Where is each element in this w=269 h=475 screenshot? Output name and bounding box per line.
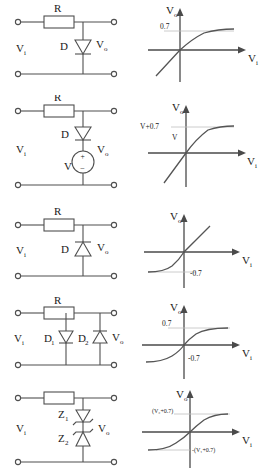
- x-axis-label: V: [242, 347, 250, 359]
- row-1: R V i V o D V o V i 0.7: [0, 0, 269, 95]
- y-axis-arrow: [183, 105, 190, 113]
- x-axis-label: V: [247, 155, 255, 167]
- terminal-out-top: [111, 310, 116, 315]
- terminal-out-top: [111, 19, 116, 24]
- diode2-label-sub: 2: [85, 339, 89, 347]
- x-axis-label-sub: i: [250, 354, 252, 362]
- diode-label: D: [60, 40, 68, 52]
- circuit-3: R V i V o D: [0, 200, 134, 295]
- terminal-out-top: [111, 108, 116, 113]
- row-2: + – R V i V o D V V o V: [0, 95, 269, 200]
- terminal-out-bottom: [111, 273, 116, 278]
- graph-5: V o V i (V₂+0.7) -(V₁+0.7): [134, 390, 269, 475]
- terminal-out-bottom: [111, 182, 116, 187]
- x-axis-arrow: [232, 429, 240, 436]
- resistor-label: R: [54, 390, 62, 391]
- zener2-label-sub: 2: [65, 439, 69, 447]
- diode-label: D: [61, 243, 69, 255]
- y-tick-label-1: V: [172, 133, 178, 142]
- output-label: V: [97, 241, 105, 253]
- terminal-in-top: [15, 222, 20, 227]
- y-tick-label-1: -(V₁+0.7): [192, 447, 215, 454]
- output-label-sub: o: [105, 150, 109, 158]
- y-axis-label-sub: o: [184, 395, 188, 403]
- output-label-sub: o: [104, 45, 108, 53]
- graph-1: V o V i 0.7: [134, 0, 269, 95]
- terminal-out-bottom: [111, 362, 116, 367]
- resistor-body: [44, 16, 74, 28]
- x-axis-label-sub: i: [256, 59, 258, 67]
- terminal-in-top: [15, 108, 20, 113]
- input-label: V: [16, 143, 24, 155]
- output-label-sub: o: [105, 248, 109, 256]
- diode-triangle: [75, 127, 91, 140]
- y-tick-label-0: -0.7: [190, 269, 202, 278]
- y-axis-arrow: [181, 214, 188, 222]
- terminal-in-bottom: [15, 273, 20, 278]
- x-axis-label-sub: i: [255, 162, 257, 170]
- source-plus-sign: +: [81, 152, 85, 161]
- resistor-body: [44, 219, 74, 231]
- y-axis-label-sub: o: [178, 308, 182, 316]
- resistor-body: [44, 392, 74, 404]
- y-tick-label-0: V+0.7: [140, 122, 159, 131]
- y-axis-label: V: [166, 4, 174, 16]
- row-5: R V i V o Z 1 Z 2 V o V: [0, 390, 269, 475]
- circuit-2: + – R V i V o D V: [0, 95, 134, 190]
- x-axis-label: V: [242, 254, 250, 266]
- input-label-sub: i: [22, 339, 24, 347]
- diode2-triangle: [93, 331, 107, 343]
- y-axis-arrow: [187, 390, 194, 398]
- zener1-triangle: [76, 410, 90, 422]
- input-label: V: [16, 42, 24, 54]
- y-tick-label-1: -0.7: [188, 354, 200, 363]
- voltage-source-label: V: [64, 160, 72, 172]
- y-axis-arrow: [181, 305, 188, 313]
- input-label: V: [14, 332, 22, 344]
- x-axis-label: V: [248, 52, 256, 64]
- y-axis-label: V: [172, 101, 180, 113]
- y-axis-label-sub: o: [180, 108, 184, 116]
- y-axis-label: V: [170, 210, 178, 222]
- resistor-label: R: [54, 2, 62, 14]
- diode1-triangle: [59, 331, 73, 343]
- output-label: V: [96, 38, 104, 50]
- graph-3: V o V i -0.7: [134, 200, 269, 295]
- zener2-label: Z: [58, 432, 65, 444]
- output-label-sub: o: [106, 429, 110, 437]
- terminal-in-bottom: [15, 71, 20, 76]
- diode-triangle: [75, 242, 91, 256]
- graph-4: V o V i 0.7 -0.7: [134, 295, 269, 390]
- x-axis-arrow: [238, 150, 246, 157]
- diode-triangle: [75, 40, 91, 54]
- source-minus-sign: –: [80, 163, 85, 172]
- x-axis-arrow: [232, 249, 240, 256]
- y-axis-label: V: [170, 301, 178, 313]
- terminal-in-top: [15, 395, 20, 400]
- terminal-out-top: [111, 222, 116, 227]
- output-label-sub: o: [120, 338, 124, 346]
- figure-sheet: R V i V o D V o V i 0.7: [0, 0, 269, 475]
- input-label-sub: i: [24, 150, 26, 158]
- terminal-out-bottom: [111, 71, 116, 76]
- zener2-triangle: [76, 432, 90, 446]
- row-4: R V i V o D 1 D 2 V o V i: [0, 295, 269, 390]
- terminal-in-top: [15, 19, 20, 24]
- y-tick-label-0: (V₂+0.7): [152, 408, 173, 415]
- output-label: V: [98, 422, 106, 434]
- diode-label: D: [61, 128, 69, 140]
- output-label: V: [97, 143, 105, 155]
- resistor-label: R: [54, 205, 62, 217]
- y-tick-label-0: 0.7: [162, 319, 172, 328]
- resistor-body: [44, 105, 74, 117]
- input-label: V: [16, 422, 24, 434]
- resistor-label: R: [54, 295, 62, 306]
- zener1-label-sub: 1: [65, 415, 69, 423]
- x-axis-label-sub: i: [250, 261, 252, 269]
- terminal-in-bottom: [15, 459, 20, 464]
- x-axis-label-sub: i: [250, 441, 252, 449]
- graph-2: V o V i V+0.7 V: [134, 95, 269, 190]
- output-label: V: [112, 331, 120, 343]
- zener1-label: Z: [58, 408, 65, 420]
- diode1-label-sub: 1: [51, 339, 55, 347]
